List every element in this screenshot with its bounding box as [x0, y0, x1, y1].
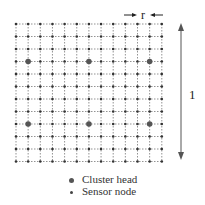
sensor-node	[100, 73, 103, 76]
sensor-node	[15, 148, 18, 151]
sensor-node	[63, 160, 66, 163]
sensor-node	[27, 85, 30, 88]
sensor-node	[88, 23, 91, 26]
sensor-node	[88, 160, 91, 163]
sensor-node	[27, 48, 30, 51]
sensor-node	[39, 85, 42, 88]
sensor-node	[15, 60, 18, 63]
sensor-node	[136, 160, 139, 163]
sensor-node	[148, 85, 151, 88]
sensor-node	[161, 135, 164, 138]
sensor-node	[100, 48, 103, 51]
sensor-node	[75, 23, 78, 26]
sensor-node	[88, 35, 91, 38]
cluster-head	[25, 121, 31, 127]
side-length-label: 1	[189, 87, 196, 103]
sensor-node	[15, 98, 18, 101]
sensor-node	[161, 160, 164, 163]
sensor-node	[148, 48, 151, 51]
cluster-heads	[25, 59, 152, 127]
sensor-node	[124, 73, 127, 76]
sensor-node	[27, 110, 30, 113]
sensor-node	[136, 148, 139, 151]
sensor-node	[112, 60, 115, 63]
grid-lines	[16, 24, 162, 162]
sensor-node	[27, 23, 30, 26]
sensor-node	[88, 98, 91, 101]
sensor-node	[124, 123, 127, 126]
sensor-node	[39, 148, 42, 151]
sensor-node	[100, 23, 103, 26]
sensor-node	[112, 23, 115, 26]
sensor-node	[148, 35, 151, 38]
sensor-node	[51, 48, 54, 51]
sensor-node	[112, 148, 115, 151]
sensor-node	[51, 23, 54, 26]
sensor-node	[112, 48, 115, 51]
sensor-node	[161, 85, 164, 88]
sensor-node	[75, 123, 78, 126]
sensor-node	[136, 135, 139, 138]
sensor-node	[136, 60, 139, 63]
sensor-node	[27, 35, 30, 38]
sensor-node	[124, 35, 127, 38]
sensor-node	[100, 123, 103, 126]
sensor-node	[136, 85, 139, 88]
sensor-node	[161, 98, 164, 101]
sensor-node	[51, 85, 54, 88]
sensor-node	[39, 23, 42, 26]
sensor-node	[27, 135, 30, 138]
sensor-node	[88, 85, 91, 88]
sensor-node	[88, 48, 91, 51]
sensor-node	[161, 35, 164, 38]
sensor-node	[39, 60, 42, 63]
sensor-node	[136, 98, 139, 101]
sensor-node	[63, 23, 66, 26]
sensor-node	[27, 73, 30, 76]
sensor-node	[75, 60, 78, 63]
sensor-node	[75, 160, 78, 163]
sensor-node	[75, 48, 78, 51]
legend-item-cluster-head: Cluster head	[66, 173, 137, 185]
sensor-node	[75, 148, 78, 151]
sensor-node	[112, 85, 115, 88]
sensor-node	[100, 148, 103, 151]
sensor-node	[100, 160, 103, 163]
sensor-node	[88, 135, 91, 138]
sensor-node	[161, 48, 164, 51]
sensor-node	[39, 110, 42, 113]
sensor-node	[161, 60, 164, 63]
sensor-node	[15, 35, 18, 38]
cluster-head	[147, 59, 153, 65]
sensor-node	[63, 73, 66, 76]
sensor-node	[15, 135, 18, 138]
sensor-node	[39, 98, 42, 101]
sensor-node	[27, 148, 30, 151]
sensor-node	[100, 110, 103, 113]
sensor-node	[136, 123, 139, 126]
sensor-node	[148, 110, 151, 113]
sensor-node	[63, 123, 66, 126]
sensor-node	[39, 73, 42, 76]
sensor-node	[124, 48, 127, 51]
sensor-node	[75, 85, 78, 88]
sensor-node	[124, 160, 127, 163]
sensor-node	[15, 48, 18, 51]
sensor-node	[148, 135, 151, 138]
sensor-node	[39, 123, 42, 126]
sensor-node	[100, 135, 103, 138]
sensor-node	[75, 98, 78, 101]
sensor-node	[100, 98, 103, 101]
sensor-node	[161, 148, 164, 151]
sensor-node	[39, 35, 42, 38]
height-arrow	[178, 23, 184, 160]
sensor-node	[51, 98, 54, 101]
sensor-node	[51, 110, 54, 113]
sensor-node	[161, 123, 164, 126]
sensor-node	[124, 60, 127, 63]
sensor-node	[51, 123, 54, 126]
sensor-node	[75, 73, 78, 76]
sensor-node	[27, 160, 30, 163]
sensor-node	[112, 110, 115, 113]
sensor-node	[15, 85, 18, 88]
